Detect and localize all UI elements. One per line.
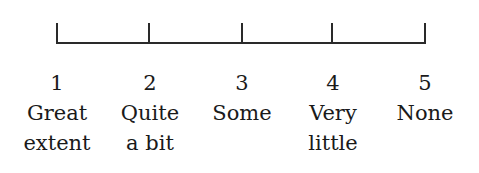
scale-label-line2: little xyxy=(278,128,388,158)
scale-label-line2: a bit xyxy=(95,128,205,158)
likert-scale: 1 Great extent 2 Quite a bit 3 Some 4 Ve… xyxy=(0,0,479,173)
scale-point-5: 5 None xyxy=(370,68,479,128)
tick-2 xyxy=(148,23,150,44)
tick-4 xyxy=(331,23,333,44)
scale-label-line1: None xyxy=(370,98,479,128)
tick-1 xyxy=(56,23,58,44)
tick-5 xyxy=(424,23,426,44)
scale-value: 5 xyxy=(370,68,479,98)
tick-3 xyxy=(241,23,243,44)
